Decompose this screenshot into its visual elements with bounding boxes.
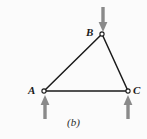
member-A-B bbox=[44, 34, 102, 91]
joint-B bbox=[100, 32, 104, 36]
load-arrow-head-B bbox=[99, 22, 108, 32]
reaction-arrow-head-C bbox=[124, 95, 133, 105]
joint-C bbox=[126, 89, 130, 93]
node-label-C: C bbox=[133, 85, 140, 96]
reaction-arrow-at-A bbox=[41, 95, 50, 119]
joint-A bbox=[42, 89, 46, 93]
truss-members bbox=[44, 34, 128, 91]
truss-figure: A B C (b) bbox=[0, 0, 147, 139]
reaction-arrow-head-A bbox=[41, 95, 50, 105]
reaction-arrow-at-C bbox=[124, 95, 133, 119]
load-arrow-at-B bbox=[99, 7, 108, 32]
node-label-A: A bbox=[28, 85, 35, 96]
figure-caption: (b) bbox=[0, 117, 147, 128]
truss-joints bbox=[42, 32, 130, 93]
member-B-C bbox=[102, 34, 128, 91]
node-label-B: B bbox=[86, 27, 93, 38]
